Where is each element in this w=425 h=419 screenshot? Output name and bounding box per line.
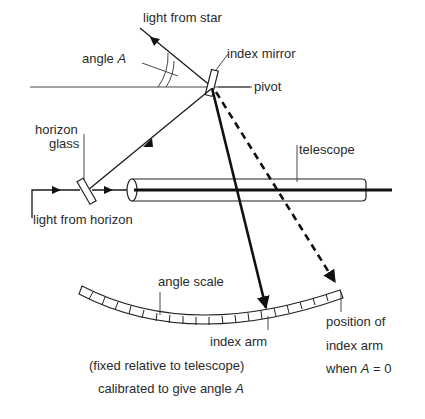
label-index-mirror: index mirror — [227, 46, 296, 61]
label-position-3: when A = 0 — [325, 361, 391, 376]
reflected-ray — [88, 89, 211, 190]
label-position-2: index arm — [326, 338, 383, 353]
label-light-from-star: light from star — [143, 10, 222, 25]
label-angle-scale: angle scale — [158, 274, 224, 289]
label-horizon-glass-1: horizon — [35, 122, 78, 137]
label-pivot: pivot — [254, 79, 282, 94]
reflected-ray-arrow — [143, 138, 153, 147]
angle-scale — [79, 286, 343, 325]
label-index-arm-note-1: (fixed relative to telescope) — [89, 358, 244, 373]
label-telescope: telescope — [299, 142, 355, 157]
horizon-glass — [77, 178, 96, 204]
label-light-from-horizon: light from horizon — [33, 212, 133, 227]
sextant-diagram: light from star angle A index mirror piv… — [0, 0, 425, 419]
angle-A-leader — [142, 63, 178, 76]
label-position-1: position of — [326, 314, 386, 329]
label-horizon-glass-2: glass — [49, 136, 80, 151]
telescope — [127, 179, 392, 201]
star-ray-arrow — [150, 37, 160, 46]
ray-to-telescope-arrow — [104, 186, 113, 194]
horizon-ray-arrow — [52, 186, 61, 194]
star-ray — [140, 28, 212, 87]
label-angle-A: angle A — [82, 51, 126, 66]
label-index-arm-note-2: calibrated to give angle A — [98, 381, 244, 396]
angle-arc-outer — [158, 53, 168, 87]
label-index-arm: index arm — [210, 334, 267, 349]
